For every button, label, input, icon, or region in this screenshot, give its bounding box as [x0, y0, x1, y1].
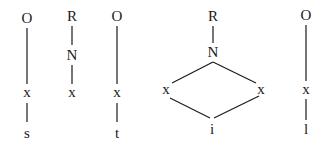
node-g5-mid: x	[302, 81, 310, 97]
edge-g4-right-bot	[214, 96, 259, 118]
edge-g4-n-left	[172, 62, 213, 83]
node-g1-top: O	[22, 10, 33, 26]
graph-3: O x t	[112, 8, 123, 141]
node-g3-top: O	[112, 8, 123, 24]
node-g4-right: x	[257, 81, 265, 97]
node-g4-n: N	[208, 44, 219, 60]
node-g4-left: x	[162, 81, 170, 97]
node-g3-bot: t	[115, 125, 120, 141]
graph-1: O x s	[22, 10, 33, 141]
graph-4: R N x x i	[162, 8, 265, 137]
node-g1-bot: s	[24, 125, 30, 141]
edge-g4-left-bot	[170, 98, 210, 118]
node-g3-mid: x	[113, 84, 121, 100]
graph-5: O x l	[301, 7, 312, 137]
graph-2: R N x	[67, 8, 78, 100]
node-g5-top: O	[301, 7, 312, 23]
node-g5-bot: l	[304, 121, 308, 137]
node-g2-top: R	[67, 8, 77, 24]
lattice-diagram: O x s R N x O x t R N x x i O x l	[0, 0, 330, 153]
node-g2-bot: x	[68, 84, 76, 100]
node-g1-mid: x	[23, 84, 31, 100]
node-g4-top: R	[208, 8, 218, 24]
edge-g4-n-right	[213, 62, 256, 83]
node-g2-mid: N	[67, 47, 78, 63]
node-g4-bot: i	[210, 121, 214, 137]
